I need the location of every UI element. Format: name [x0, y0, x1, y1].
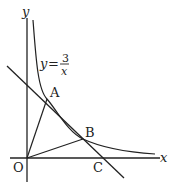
point-b-label: B [85, 125, 95, 140]
point-a-label: A [49, 85, 60, 100]
diagram: y x y = 3 x A B O C [0, 0, 172, 186]
x-axis-label: x [160, 150, 168, 165]
line-abc [7, 66, 124, 178]
curve-label-den: x [61, 65, 68, 78]
curve-label-eq: = [48, 56, 59, 71]
y-axis-label: y [21, 4, 30, 19]
curve-label-y: y [39, 56, 48, 71]
point-c-label: C [93, 160, 103, 175]
graph: y x y = 3 x A B O C [0, 0, 172, 186]
point-o-label: O [13, 160, 24, 175]
curve-label-num: 3 [62, 52, 69, 65]
segment-ob [27, 139, 83, 158]
segment-oa [27, 99, 47, 158]
